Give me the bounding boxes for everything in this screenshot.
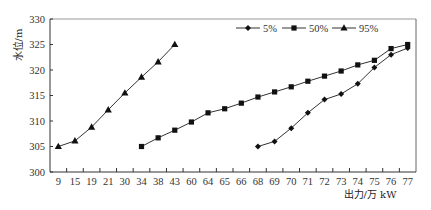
x-axis-title: 出力/万 kW <box>344 188 398 200</box>
y-tick-label: 315 <box>29 90 45 101</box>
x-tick-label: 30 <box>120 176 131 187</box>
square-marker <box>339 68 344 73</box>
y-axis-title: 水位/m <box>12 28 24 61</box>
diamond-marker <box>255 144 261 150</box>
x-tick-label: 69 <box>269 176 280 187</box>
square-marker <box>405 42 410 47</box>
legend-item: 5% <box>236 23 277 34</box>
triangle-marker <box>71 137 78 143</box>
square-marker <box>289 84 294 89</box>
y-axis: 300305310315320325330 <box>29 14 53 178</box>
square-marker <box>291 25 296 30</box>
x-tick-label: 38 <box>153 176 164 187</box>
x-tick-label: 73 <box>336 176 347 187</box>
legend-label: 95% <box>359 23 379 34</box>
legend-item: 95% <box>332 23 379 34</box>
square-marker <box>156 135 161 140</box>
square-marker <box>205 110 210 115</box>
x-tick-label: 64 <box>203 176 214 187</box>
square-marker <box>272 89 277 94</box>
x-axis: 9151921303438436064656668697071727374757… <box>56 168 413 187</box>
x-tick-label: 77 <box>402 176 413 187</box>
legend: 5%50%95% <box>236 23 379 34</box>
series-5pct <box>255 45 411 149</box>
x-tick-label: 72 <box>319 176 330 187</box>
square-marker <box>372 58 377 63</box>
y-tick-label: 330 <box>29 14 45 25</box>
x-tick-label: 43 <box>170 176 181 187</box>
diamond-marker <box>338 91 344 97</box>
x-tick-label: 74 <box>353 176 364 187</box>
square-marker <box>222 106 227 111</box>
square-marker <box>305 79 310 84</box>
legend-item: 50% <box>282 23 329 34</box>
x-tick-label: 34 <box>136 176 147 187</box>
legend-label: 50% <box>309 23 329 34</box>
y-tick-label: 325 <box>29 39 45 50</box>
square-marker <box>139 144 144 149</box>
x-tick-label: 75 <box>369 176 380 187</box>
series-50pct <box>139 42 410 149</box>
square-marker <box>239 101 244 106</box>
x-tick-label: 70 <box>286 176 297 187</box>
x-tick-label: 60 <box>186 176 197 187</box>
triangle-marker <box>171 41 178 47</box>
plot-frame <box>50 19 416 172</box>
square-marker <box>388 46 393 51</box>
y-tick-label: 320 <box>29 65 45 76</box>
series-group <box>55 41 411 150</box>
x-tick-label: 19 <box>86 176 97 187</box>
x-tick-label: 68 <box>253 176 264 187</box>
square-marker <box>172 128 177 133</box>
series-line <box>142 45 408 147</box>
legend-label: 5% <box>263 23 277 34</box>
y-tick-label: 305 <box>29 141 45 152</box>
series-95pct <box>55 41 179 149</box>
x-tick-label: 9 <box>56 176 61 187</box>
diamond-marker <box>245 25 251 31</box>
x-tick-label: 76 <box>386 176 397 187</box>
square-marker <box>355 62 360 67</box>
square-marker <box>255 94 260 99</box>
x-tick-label: 71 <box>303 176 314 187</box>
x-tick-label: 15 <box>70 176 81 187</box>
x-tick-label: 65 <box>219 176 230 187</box>
square-marker <box>322 74 327 79</box>
x-tick-label: 66 <box>236 176 247 187</box>
x-tick-label: 21 <box>103 176 114 187</box>
series-line <box>258 48 408 146</box>
y-tick-label: 310 <box>29 116 45 127</box>
line-chart: 300305310315320325330 915192130343843606… <box>0 0 431 210</box>
square-marker <box>189 119 194 124</box>
y-tick-label: 300 <box>29 167 45 178</box>
triangle-marker <box>340 24 347 30</box>
